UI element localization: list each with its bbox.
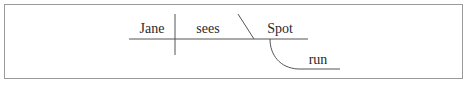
sentence-diagram: Jane sees Spot run <box>0 0 469 85</box>
subject-word: Jane <box>140 21 165 36</box>
complement-branch <box>270 39 340 69</box>
verb-word: sees <box>196 21 219 36</box>
verb-object-divider <box>238 14 254 39</box>
object-word: Spot <box>267 21 293 36</box>
complement-word: run <box>309 52 328 67</box>
